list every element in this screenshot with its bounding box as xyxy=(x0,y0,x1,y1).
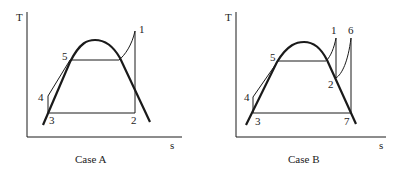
case-a-point-4: 4 xyxy=(38,91,44,103)
case-a-diagram: T s 1 5 4 3 2 Case A xyxy=(16,11,182,165)
case-a-point-5: 5 xyxy=(62,50,68,62)
case-a-cycle xyxy=(48,31,135,113)
case-a-point-1: 1 xyxy=(139,23,145,35)
case-a-point-2: 2 xyxy=(131,114,137,126)
case-b-point-7: 7 xyxy=(344,115,350,127)
case-a-saturation-dome xyxy=(43,40,150,125)
case-b-t-label: T xyxy=(225,11,232,23)
case-b-s-label: s xyxy=(379,139,383,151)
case-b-point-2: 2 xyxy=(328,78,334,90)
case-b-caption: Case B xyxy=(288,153,319,165)
case-b-point-1: 1 xyxy=(331,24,337,36)
case-b-point-6: 6 xyxy=(348,24,354,36)
case-b-point-5: 5 xyxy=(270,51,276,63)
case-b-point-4: 4 xyxy=(244,91,250,103)
case-b-diagram: T s 1 6 5 2 4 3 7 Case B xyxy=(225,11,386,165)
case-b-point-3: 3 xyxy=(255,115,261,127)
case-a-point-3: 3 xyxy=(49,114,55,126)
ts-diagrams: T s 1 5 4 3 2 Case A T s 1 6 5 2 4 3 7 C… xyxy=(0,0,405,177)
case-b-cycle xyxy=(253,38,351,113)
case-a-s-label: s xyxy=(170,139,174,151)
case-a-caption: Case A xyxy=(75,153,107,165)
case-a-t-label: T xyxy=(16,11,23,23)
